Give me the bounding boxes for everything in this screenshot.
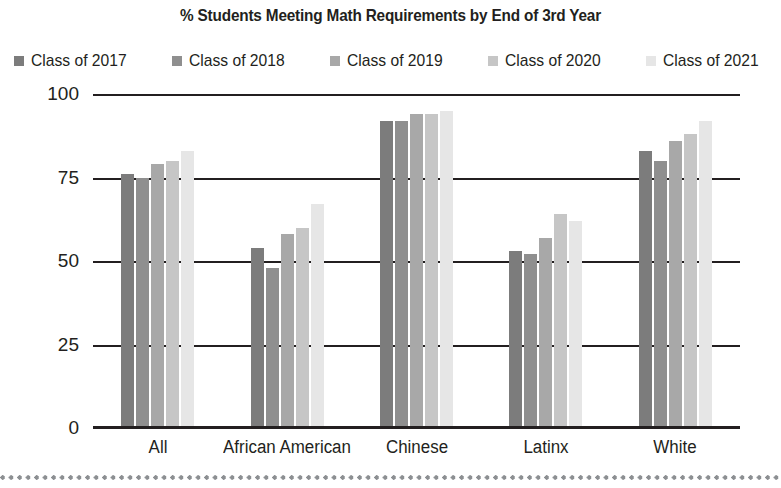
- x-axis-line: [93, 426, 740, 429]
- bar-african-american-class-of-2021[interactable]: [311, 204, 324, 428]
- bar-chinese-class-of-2019[interactable]: [410, 114, 423, 428]
- legend-swatch-class-of-2021: [646, 56, 656, 66]
- bar-african-american-class-of-2018[interactable]: [266, 268, 279, 428]
- bar-chinese-class-of-2018[interactable]: [395, 121, 408, 428]
- chart-container: % Students Meeting Math Requirements by …: [0, 0, 781, 488]
- bar-white-class-of-2021[interactable]: [699, 121, 712, 428]
- legend-swatch-class-of-2017: [14, 56, 24, 66]
- x-axis-tick-all: All: [148, 437, 168, 458]
- y-axis-tick-50: 50: [58, 250, 79, 272]
- bar-group-chinese: Chinese: [352, 94, 481, 428]
- x-axis-tick-label: Chinese: [385, 437, 447, 458]
- bar-african-american-class-of-2019[interactable]: [281, 234, 294, 428]
- bottom-dotted-divider: [0, 475, 781, 480]
- bar-chinese-class-of-2017[interactable]: [380, 121, 393, 428]
- legend-item-1[interactable]: Class of 2018: [172, 51, 293, 71]
- plot-area: 1007550250 AllAfrican AmericanChineseLat…: [93, 94, 740, 428]
- bar-group-latinx: Latinx: [481, 94, 610, 428]
- bar-all-class-of-2017[interactable]: [121, 174, 134, 428]
- legend-item-3[interactable]: Class of 2020: [488, 51, 609, 71]
- bar-latinx-class-of-2017[interactable]: [509, 251, 522, 428]
- bar-all-class-of-2019[interactable]: [151, 164, 164, 428]
- bar-african-american-class-of-2017[interactable]: [251, 248, 264, 428]
- legend-label-2: Class of 2019: [347, 51, 443, 71]
- chart-legend: Class of 2017Class of 2018Class of 2019C…: [14, 50, 767, 72]
- bar-group-african-american: African American: [222, 94, 351, 428]
- y-axis-tick-75: 75: [58, 167, 79, 189]
- legend-item-0[interactable]: Class of 2017: [14, 51, 135, 71]
- legend-swatch-class-of-2020: [488, 56, 498, 66]
- x-axis-tick-label: African American: [223, 437, 351, 458]
- x-axis-tick-white: White: [652, 437, 698, 458]
- x-axis-tick-chinese: Chinese: [383, 437, 449, 458]
- x-axis-tick-label: White: [654, 437, 697, 458]
- bar-group-all: All: [93, 94, 222, 428]
- y-axis-tick-100: 100: [47, 83, 79, 105]
- legend-item-2[interactable]: Class of 2019: [330, 51, 451, 71]
- bar-white-class-of-2017[interactable]: [639, 151, 652, 428]
- x-axis-tick-african-american: African American: [219, 437, 355, 458]
- bar-chinese-class-of-2021[interactable]: [440, 111, 453, 428]
- bar-groups: AllAfrican AmericanChineseLatinxWhite: [93, 94, 740, 428]
- bar-white-class-of-2020[interactable]: [684, 134, 697, 428]
- bar-latinx-class-of-2019[interactable]: [539, 238, 552, 428]
- y-axis-tick-25: 25: [58, 334, 79, 356]
- bar-group-white: White: [611, 94, 740, 428]
- bar-african-american-class-of-2020[interactable]: [296, 228, 309, 428]
- x-axis-tick-latinx: Latinx: [522, 437, 570, 458]
- bar-all-class-of-2020[interactable]: [166, 161, 179, 428]
- legend-swatch-class-of-2019: [330, 56, 340, 66]
- bar-latinx-class-of-2021[interactable]: [569, 221, 582, 428]
- bar-all-class-of-2018[interactable]: [136, 178, 149, 429]
- bar-latinx-class-of-2020[interactable]: [554, 214, 567, 428]
- x-axis-tick-label: Latinx: [523, 437, 568, 458]
- chart-title: % Students Meeting Math Requirements by …: [27, 6, 753, 25]
- bar-white-class-of-2019[interactable]: [669, 141, 682, 428]
- legend-swatch-class-of-2018: [172, 56, 182, 66]
- legend-label-0: Class of 2017: [31, 51, 127, 71]
- bar-white-class-of-2018[interactable]: [654, 161, 667, 428]
- legend-label-1: Class of 2018: [189, 51, 285, 71]
- x-axis-tick-label: All: [148, 437, 167, 458]
- y-axis-tick-0: 0: [68, 417, 79, 439]
- bar-latinx-class-of-2018[interactable]: [524, 254, 537, 428]
- bar-chinese-class-of-2020[interactable]: [425, 114, 438, 428]
- legend-label-3: Class of 2020: [505, 51, 601, 71]
- legend-item-4[interactable]: Class of 2021: [646, 51, 767, 71]
- bar-all-class-of-2021[interactable]: [181, 151, 194, 428]
- legend-label-4: Class of 2021: [663, 51, 759, 71]
